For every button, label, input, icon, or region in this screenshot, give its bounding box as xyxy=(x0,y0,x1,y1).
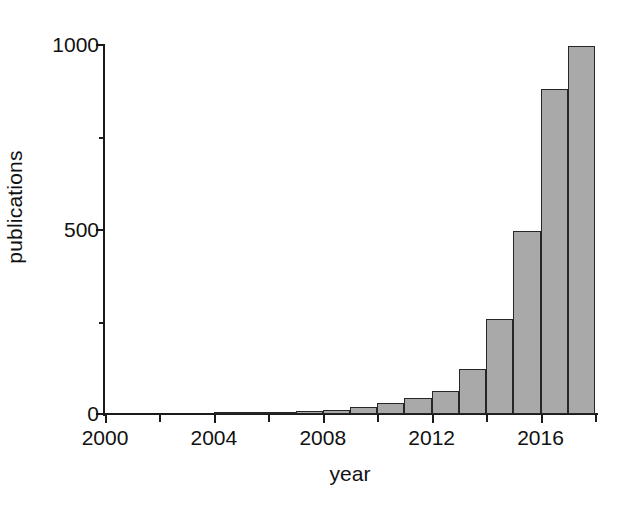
plot-area: 0500100020002004200820122016 xyxy=(105,45,595,414)
bar-2011 xyxy=(404,398,431,414)
x-tick-mark xyxy=(214,414,216,423)
x-tick-mark xyxy=(432,414,434,423)
x-minor-tick-2002 xyxy=(159,414,161,422)
x-tick-label: 2000 xyxy=(82,426,129,450)
y-minor-tick-750 xyxy=(99,137,105,139)
bar-2016 xyxy=(541,89,568,414)
bar-2014 xyxy=(486,319,513,414)
bar-2012 xyxy=(432,391,459,414)
bar-2006 xyxy=(268,412,295,414)
bar-2013 xyxy=(459,369,486,414)
bar-2004 xyxy=(214,412,241,414)
x-minor-tick-2018 xyxy=(595,414,597,422)
publications-per-year-bar-chart: publications 050010002000200420082012201… xyxy=(0,0,624,513)
x-tick-mark xyxy=(541,414,543,423)
x-minor-tick-2010 xyxy=(377,414,379,422)
bar-2009 xyxy=(350,407,377,414)
y-axis-title: publications xyxy=(0,0,30,414)
x-tick-label: 2004 xyxy=(191,426,238,450)
bar-2015 xyxy=(513,231,540,414)
x-tick-mark xyxy=(323,414,325,423)
x-tick-label: 2008 xyxy=(299,426,346,450)
y-tick-label: 500 xyxy=(64,218,99,242)
x-axis-title: year xyxy=(105,462,595,486)
y-minor-tick-250 xyxy=(99,322,105,324)
x-tick-mark xyxy=(105,414,107,423)
bar-2017 xyxy=(568,46,595,414)
y-tick-label: 1000 xyxy=(52,33,99,57)
bar-2010 xyxy=(377,403,404,414)
y-tick-label: 0 xyxy=(87,402,99,426)
bar-2007 xyxy=(296,411,323,414)
x-tick-label: 2012 xyxy=(408,426,455,450)
bar-2008 xyxy=(323,410,350,414)
x-minor-tick-2014 xyxy=(486,414,488,422)
x-tick-label: 2016 xyxy=(517,426,564,450)
x-minor-tick-2006 xyxy=(268,414,270,422)
bar-2005 xyxy=(241,412,268,414)
